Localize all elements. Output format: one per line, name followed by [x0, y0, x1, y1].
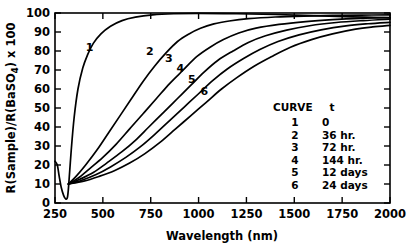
legend-row-value: 0	[322, 116, 329, 128]
legend-row-value: 72 hr.	[322, 141, 355, 153]
curve-number-labels: 123456	[86, 41, 209, 98]
svg-text:R(Sample)/R(BaSO4) x 100: R(Sample)/R(BaSO4) x 100	[4, 23, 20, 194]
y-axis-tick-labels: 0102030405060708090100	[26, 6, 50, 210]
curve-label-4: 4	[177, 62, 185, 75]
legend-row-value: 12 days	[322, 166, 368, 178]
x-tick-label: 2000	[374, 207, 406, 221]
reflectance-spectra-chart: 25050075010001250150017502000 0102030405…	[0, 0, 417, 246]
legend-row-curve: 2	[291, 129, 298, 141]
y-tick-label: 90	[34, 25, 50, 39]
x-tick-label: 750	[139, 207, 163, 221]
y-axis-title-post: ) x 100	[4, 23, 18, 68]
y-tick-label: 70	[34, 63, 50, 77]
y-tick-label: 0	[42, 196, 50, 210]
y-axis-title-pre: R(Sample)/R(BaSO	[4, 73, 18, 193]
legend-row-curve: 3	[291, 141, 298, 153]
y-tick-label: 20	[34, 158, 50, 172]
curve-label-3: 3	[165, 52, 173, 65]
legend-header-t: t	[329, 101, 334, 113]
legend-rows: 10236 hr.372 hr.4144 hr.512 days624 days	[291, 116, 367, 191]
x-axis-tick-labels: 25050075010001250150017502000	[43, 207, 406, 221]
y-tick-label: 80	[34, 44, 50, 58]
x-tick-label: 1750	[326, 207, 358, 221]
x-tick-label: 1500	[278, 207, 310, 221]
curve-label-5: 5	[188, 73, 196, 86]
legend-row-value: 36 hr.	[322, 129, 355, 141]
legend: CURVE t 10236 hr.372 hr.4144 hr.512 days…	[273, 101, 368, 191]
x-tick-label: 1250	[230, 207, 262, 221]
y-axis-title: R(Sample)/R(BaSO4) x 100	[4, 23, 20, 194]
legend-row-curve: 6	[291, 179, 298, 191]
legend-header-curve: CURVE	[273, 101, 313, 113]
x-tick-label: 1000	[183, 207, 215, 221]
y-tick-label: 50	[34, 101, 50, 115]
curve-label-6: 6	[200, 85, 208, 98]
x-tick-label: 500	[91, 207, 115, 221]
y-tick-label: 10	[34, 177, 50, 191]
y-tick-label: 40	[34, 120, 50, 134]
legend-row-curve: 1	[291, 116, 298, 128]
legend-row-curve: 4	[291, 154, 298, 166]
legend-row-value: 24 days	[322, 179, 368, 191]
y-tick-label: 30	[34, 139, 50, 153]
curve-label-2: 2	[146, 45, 154, 58]
curve-label-1: 1	[86, 41, 94, 54]
legend-row-value: 144 hr.	[322, 154, 363, 166]
legend-row-curve: 5	[291, 166, 298, 178]
y-tick-label: 60	[34, 82, 50, 96]
y-tick-label: 100	[26, 6, 50, 20]
figure-root: 25050075010001250150017502000 0102030405…	[0, 0, 417, 246]
x-axis-title: Wavelength (nm)	[166, 229, 278, 243]
